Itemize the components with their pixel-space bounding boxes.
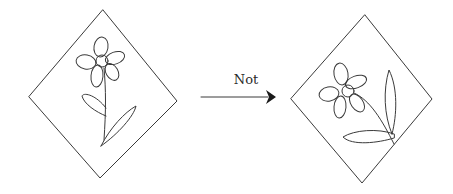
left-figure — [29, 10, 177, 178]
arrow-label: Not — [226, 72, 266, 87]
left-diamond — [29, 10, 177, 178]
diagram-canvas — [0, 0, 453, 194]
right-figure — [291, 15, 432, 183]
right-flower-icon — [318, 62, 396, 144]
left-flower-icon — [75, 36, 136, 146]
arrow — [201, 90, 276, 104]
